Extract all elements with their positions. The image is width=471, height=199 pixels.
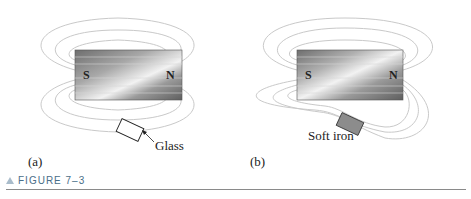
material-label: Glass (155, 138, 184, 154)
panel-label: (b) (250, 154, 265, 170)
panel-a: S N Glass (a) (0, 0, 235, 170)
magnet-glass-diagram (0, 0, 235, 170)
south-pole-label: S (83, 68, 90, 83)
north-pole-label: N (166, 68, 175, 83)
figure-caption-text: FIGURE 7–3 (18, 175, 85, 186)
panel-b: S N Soft iron (b) (235, 0, 471, 170)
glass-piece (116, 119, 144, 142)
figure-caption: FIGURE 7–3 (6, 175, 85, 186)
material-label: Soft iron (308, 128, 354, 144)
caption-divider (6, 189, 466, 190)
triangle-icon (6, 177, 14, 184)
bar-magnet (297, 50, 403, 100)
panel-label: (a) (28, 154, 42, 170)
magnet-soft-iron-diagram (235, 0, 471, 170)
south-pole-label: S (305, 68, 312, 83)
north-pole-label: N (389, 68, 398, 83)
